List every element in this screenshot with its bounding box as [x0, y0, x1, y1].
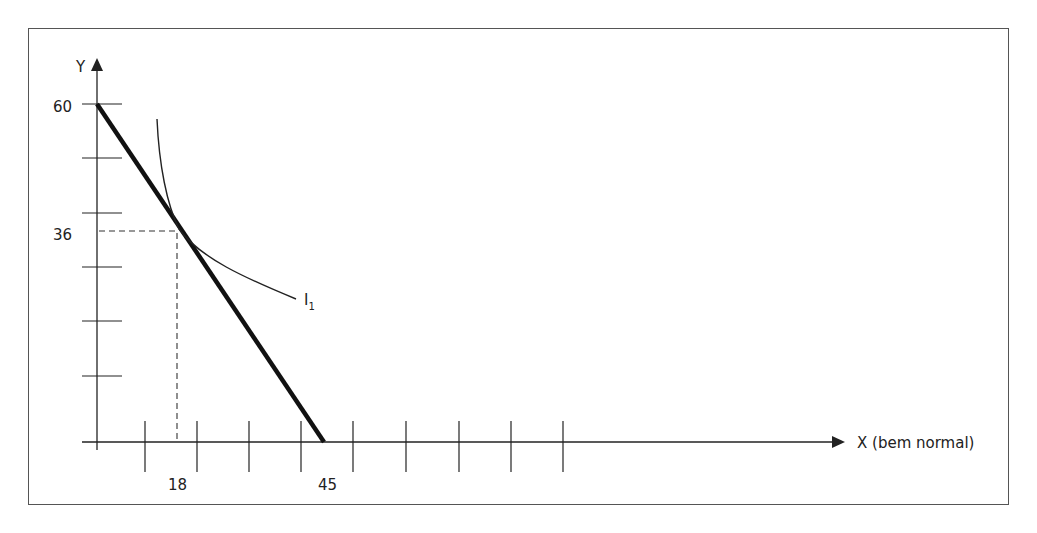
y-axis-arrow-icon — [91, 58, 103, 71]
x-axis-arrow-icon — [832, 436, 845, 448]
x-tick-18: 18 — [168, 476, 187, 494]
curve-label-i1: I1 — [304, 291, 315, 312]
y-tick-36: 36 — [53, 226, 72, 244]
x-axis-label: X (bem normal) — [857, 434, 974, 452]
chart-canvas: Y 60 36 X (bem normal) 18 45 I1 — [0, 0, 1037, 533]
y-tick-60: 60 — [53, 98, 72, 116]
x-tick-45: 45 — [318, 476, 337, 494]
y-ticks — [82, 104, 122, 376]
y-axis-label: Y — [75, 58, 86, 76]
optimum-guides — [99, 231, 179, 442]
indifference-curve-i1 — [157, 119, 296, 299]
x-ticks — [145, 421, 563, 472]
budget-line — [97, 104, 324, 442]
